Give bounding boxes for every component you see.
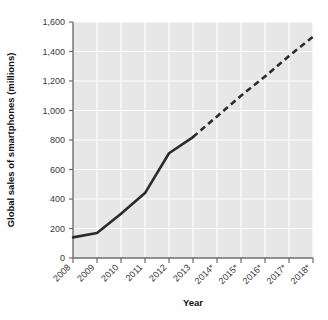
y-tick-label: 1,400 xyxy=(42,47,65,57)
x-axis-title: Year xyxy=(183,297,203,308)
y-tick-label: 600 xyxy=(50,165,65,175)
line-chart: 02004006008001,0001,2001,4001,600 200820… xyxy=(0,0,328,320)
y-tick-label: 200 xyxy=(50,224,65,234)
y-tick-label: 1,200 xyxy=(42,76,65,86)
chart-figure: 02004006008001,0001,2001,4001,600 200820… xyxy=(0,0,328,320)
y-tick-label: 1,000 xyxy=(42,106,65,116)
y-tick-label: 1,600 xyxy=(42,17,65,27)
y-axis-title: Global sales of smartphones (millions) xyxy=(5,53,16,228)
y-tick-label: 400 xyxy=(50,194,65,204)
y-tick-label: 0 xyxy=(60,253,65,263)
y-tick-label: 800 xyxy=(50,135,65,145)
